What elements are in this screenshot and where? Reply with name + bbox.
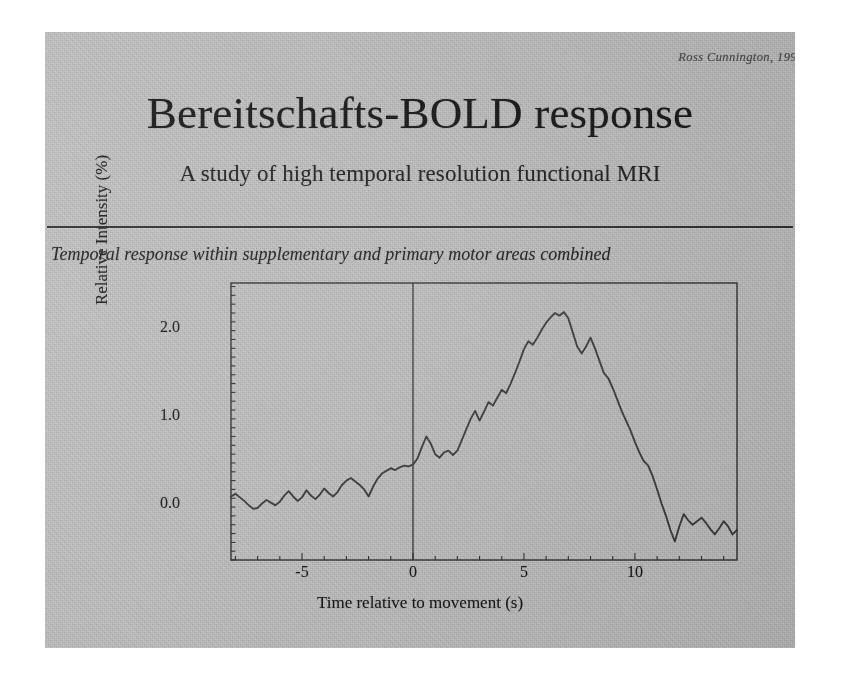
x-tick-label: 0 (393, 563, 433, 581)
line-chart-plot (100, 277, 740, 577)
x-axis-label: Time relative to movement (s) (100, 593, 740, 613)
y-tick-label: 0.0 (134, 494, 180, 512)
author-credit: Ross Cunnington, 199 (678, 50, 795, 65)
y-tick-label: 2.0 (134, 318, 180, 336)
series-line (231, 312, 737, 541)
x-tick-label: -5 (282, 563, 322, 581)
chart-figure: Relative Intensity (%) Time relative to … (100, 277, 740, 637)
horizontal-divider (47, 226, 793, 228)
presentation-slide: Ross Cunnington, 199 Bereitschafts-BOLD … (45, 32, 795, 648)
x-tick-label: 10 (615, 563, 655, 581)
plot-frame (231, 283, 737, 560)
page-title: Bereitschafts-BOLD response (45, 90, 795, 137)
y-tick-label: 1.0 (134, 406, 180, 424)
figure-caption: Temporal response within supplementary a… (51, 244, 611, 265)
page-subtitle: A study of high temporal resolution func… (45, 161, 795, 187)
x-tick-label: 5 (504, 563, 544, 581)
